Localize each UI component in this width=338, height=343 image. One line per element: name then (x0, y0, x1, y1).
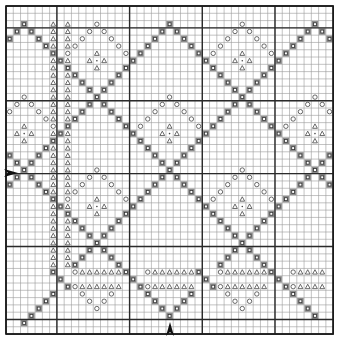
circle-stitch-icon (291, 284, 295, 288)
square-stitch-icon (50, 50, 56, 56)
square-stitch-icon (312, 313, 318, 319)
triangle-stitch-icon (65, 58, 70, 62)
triangle-stitch-icon (51, 58, 56, 62)
triangle-stitch-icon (94, 51, 99, 55)
circle-stitch-icon (44, 117, 48, 121)
square-stitch-icon (101, 232, 107, 238)
circle-stitch-icon (240, 22, 244, 26)
square-stitch-icon (43, 43, 49, 49)
circle-stitch-icon (255, 182, 259, 186)
square-stitch-icon (28, 174, 34, 180)
square-stitch-icon (181, 152, 187, 158)
circle-stitch-icon (255, 37, 259, 41)
circle-stitch-icon (226, 37, 230, 41)
square-stitch-icon (21, 320, 27, 326)
square-stitch-icon (152, 298, 158, 304)
triangle-stitch-icon (65, 248, 70, 252)
square-stitch-icon (79, 254, 85, 260)
square-stitch-icon (159, 159, 165, 165)
square-stitch-icon (174, 28, 180, 34)
square-stitch-icon (28, 28, 34, 34)
triangle-stitch-icon (102, 58, 107, 62)
square-stitch-icon (152, 181, 158, 187)
circle-stitch-icon (262, 190, 266, 194)
triangle-stitch-icon (167, 284, 172, 288)
square-stitch-icon (261, 218, 267, 224)
circle-stitch-icon (269, 51, 273, 55)
triangle-stitch-icon (65, 131, 70, 135)
square-stitch-icon (297, 298, 303, 304)
square-stitch-icon (174, 159, 180, 165)
square-stitch-icon (210, 123, 216, 129)
square-stitch-icon (283, 196, 289, 202)
triangle-stitch-icon (247, 284, 252, 288)
square-stitch-icon (86, 232, 92, 238)
square-stitch-icon (137, 196, 143, 202)
square-stitch-icon (115, 72, 121, 78)
triangle-stitch-icon (320, 131, 325, 135)
square-stitch-icon (159, 305, 165, 311)
triangle-stitch-icon (65, 219, 70, 223)
triangle-stitch-icon (116, 284, 121, 288)
square-stitch-icon (137, 283, 143, 289)
square-stitch-icon (304, 305, 310, 311)
triangle-stitch-icon (167, 138, 172, 142)
square-stitch-icon (35, 36, 41, 42)
square-stitch-icon (254, 225, 260, 231)
square-stitch-icon (152, 36, 158, 42)
triangle-stitch-icon (240, 270, 245, 274)
circle-stitch-icon (102, 29, 106, 33)
triangle-stitch-icon (51, 36, 56, 40)
square-stitch-icon (108, 79, 114, 85)
square-stitch-icon (79, 225, 85, 231)
square-stitch-icon (217, 72, 223, 78)
circle-stitch-icon (233, 29, 237, 33)
square-stitch-icon (72, 262, 78, 268)
circle-stitch-icon (175, 102, 179, 106)
square-stitch-icon (72, 72, 78, 78)
square-stitch-icon (65, 123, 71, 129)
triangle-stitch-icon (233, 270, 238, 274)
square-stitch-icon (246, 232, 252, 238)
center-dot-icon (314, 133, 316, 135)
square-stitch-icon (159, 174, 165, 180)
triangle-stitch-icon (240, 66, 245, 70)
square-stitch-icon (225, 225, 231, 231)
triangle-stitch-icon (51, 102, 56, 106)
triangle-stitch-icon (65, 44, 70, 48)
triangle-stitch-icon (87, 284, 92, 288)
pattern-grid (0, 0, 338, 343)
square-stitch-icon (326, 181, 332, 187)
square-stitch-icon (290, 189, 296, 195)
square-stitch-icon (35, 181, 41, 187)
square-stitch-icon (319, 159, 325, 165)
triangle-stitch-icon (189, 270, 194, 274)
square-stitch-icon (6, 181, 12, 187)
triangle-stitch-icon (51, 241, 56, 245)
square-stitch-icon (297, 181, 303, 187)
square-stitch-icon (166, 167, 172, 173)
square-stitch-icon (115, 218, 121, 224)
triangle-stitch-icon (51, 168, 56, 172)
circle-stitch-icon (306, 102, 310, 106)
circle-stitch-icon (124, 51, 128, 55)
triangle-stitch-icon (102, 270, 107, 274)
square-stitch-icon (326, 152, 332, 158)
circle-stitch-icon (95, 22, 99, 26)
square-stitch-icon (43, 145, 49, 151)
square-stitch-icon (203, 130, 209, 136)
square-stitch-icon (210, 211, 216, 217)
triangle-stitch-icon (65, 262, 70, 266)
circle-stitch-icon (247, 175, 251, 179)
circle-stitch-icon (29, 102, 33, 106)
triangle-stitch-icon (247, 58, 252, 62)
triangle-stitch-icon (51, 233, 56, 237)
triangle-stitch-icon (65, 29, 70, 33)
square-stitch-icon (21, 21, 27, 27)
circle-stitch-icon (80, 292, 84, 296)
circle-stitch-icon (102, 299, 106, 303)
triangle-stitch-icon (94, 270, 99, 274)
triangle-stitch-icon (247, 270, 252, 274)
triangle-stitch-icon (94, 284, 99, 288)
triangle-stitch-icon (65, 160, 70, 164)
